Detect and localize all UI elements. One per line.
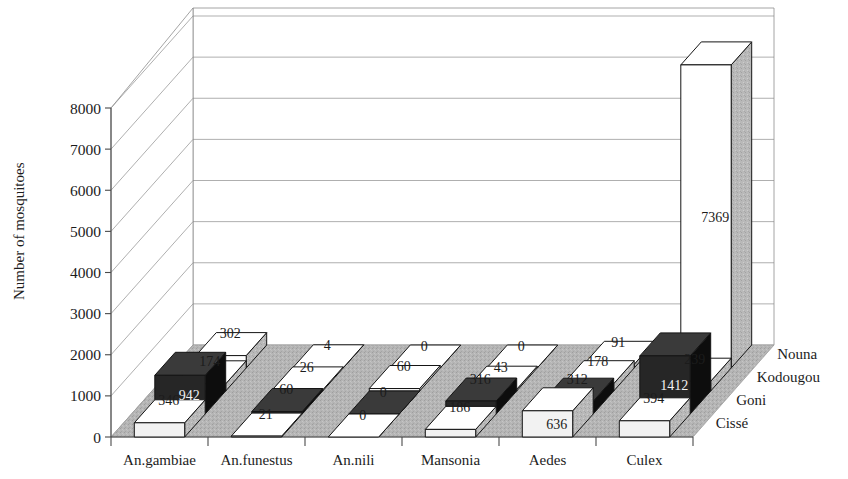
chart-container: 010002000300040005000600070008000 302400… — [0, 0, 848, 479]
bar-side-face — [731, 42, 752, 368]
x-axis-category-label: Aedes — [529, 452, 567, 468]
bar-value-label: 7369 — [701, 210, 729, 225]
bar-value-label: 0 — [518, 339, 525, 354]
bar-value-label: 1412 — [660, 378, 688, 393]
bar-value-label: 0 — [380, 385, 387, 400]
bar-value-label: 636 — [546, 417, 567, 432]
x-axis-category-label: Mansonia — [421, 452, 481, 468]
x-axis-category-labels: An.gambiaeAn.funestusAn.niliMansoniaAede… — [123, 452, 663, 468]
bar-front-face — [231, 436, 281, 437]
bar-value-label: 394 — [643, 391, 664, 406]
x-axis-category-label: Culex — [627, 452, 663, 468]
bar-value-label: 312 — [567, 372, 588, 387]
bar-front-face — [425, 429, 475, 437]
bar-value-label: 0 — [359, 408, 366, 423]
bar-nouna-culex — [681, 42, 752, 368]
y-axis-tick-label: 1000 — [70, 387, 101, 404]
bar-value-label: 21 — [259, 407, 273, 422]
bar-front-face — [619, 421, 669, 437]
x-axis-category-label: An.gambiae — [123, 452, 196, 468]
depth-axis-label-goni: Goni — [736, 392, 766, 408]
bar-value-label: 4 — [324, 338, 331, 353]
bar-value-label: 178 — [587, 354, 608, 369]
bar-value-label: 316 — [470, 372, 491, 387]
y-axis-tick-label: 5000 — [70, 223, 101, 240]
y-axis-tick-label: 8000 — [70, 100, 101, 117]
bar-value-label: 302 — [220, 326, 241, 341]
bar-front-face — [134, 423, 184, 437]
bar-value-label: 60 — [397, 359, 411, 374]
y-axis-tick-label: 4000 — [70, 264, 101, 281]
depth-axis-label-kodougou: Kodougou — [757, 369, 821, 385]
bar-value-label: 942 — [179, 388, 200, 403]
bar-value-label: 26 — [300, 360, 314, 375]
bar-value-label: 60 — [279, 382, 293, 397]
bar-value-label: 0 — [421, 339, 428, 354]
y-axis: 010002000300040005000600070008000 — [70, 100, 111, 446]
depth-axis-label-ciss: Cissé — [716, 415, 749, 431]
y-axis-title: Number of mosquitoes — [11, 162, 27, 300]
x-axis — [111, 437, 693, 446]
x-axis-category-label: An.funestus — [220, 452, 292, 468]
y-axis-tick-label: 0 — [93, 429, 101, 446]
y-axis-tick-label: 7000 — [70, 141, 101, 158]
bar-value-label: 346 — [158, 393, 179, 408]
y-axis-tick-label: 2000 — [70, 346, 101, 363]
depth-axis-label-nouna: Nouna — [777, 346, 817, 362]
bar-value-label: 43 — [494, 360, 508, 375]
bar-value-label: 174 — [199, 354, 220, 369]
y-axis-tick-label: 3000 — [70, 305, 101, 322]
bar-value-label: 91 — [611, 335, 625, 350]
bar-chart-3d: 010002000300040005000600070008000 302400… — [0, 0, 848, 479]
bar-value-label: 186 — [449, 400, 470, 415]
x-axis-category-label: An.nili — [332, 452, 374, 468]
y-axis-tick-label: 6000 — [70, 182, 101, 199]
bar-value-label: 239 — [684, 352, 705, 367]
